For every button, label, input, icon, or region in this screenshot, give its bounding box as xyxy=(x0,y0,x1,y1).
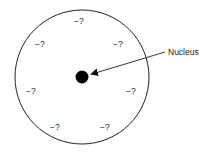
electron-charge-label: −? xyxy=(126,86,136,96)
electron-charge-label: −? xyxy=(26,86,36,96)
atom-diagram: Nucleus −? −? −? −? −? −? −? xyxy=(0,0,224,153)
electron-charge-label: −? xyxy=(113,39,123,49)
nucleus-dot xyxy=(76,71,89,84)
nucleus-label: Nucleus xyxy=(168,47,199,57)
electron-charge-label: −? xyxy=(100,122,110,132)
nucleus-arrow xyxy=(92,52,165,74)
electron-charge-label: −? xyxy=(35,39,45,49)
electron-charge-label: −? xyxy=(74,16,84,26)
electron-charge-label: −? xyxy=(50,122,60,132)
